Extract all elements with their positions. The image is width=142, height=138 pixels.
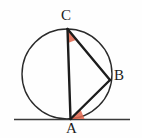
segment-ca: [68, 29, 71, 119]
vertex-label-c: C: [61, 8, 71, 23]
geometry-figure: C B A: [0, 0, 142, 138]
vertex-label-b: B: [114, 68, 124, 83]
segment-cb: [68, 29, 111, 80]
vertex-label-a: A: [66, 121, 77, 136]
